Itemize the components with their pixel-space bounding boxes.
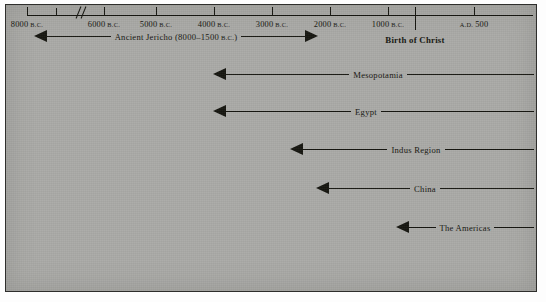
axis-tick-era: B.C. xyxy=(215,21,230,28)
birth-of-christ-tick xyxy=(415,7,416,30)
axis-tick xyxy=(214,7,215,16)
axis-tick-label: A.D. 500 xyxy=(460,20,489,29)
axis-tick-label: 8000 B.C. xyxy=(11,20,43,29)
timeline-bar-shaft-right xyxy=(440,188,534,189)
axis-tick xyxy=(104,7,105,16)
axis-tick-year: 8000 xyxy=(11,20,29,29)
axis-tick-label: 1000 B.C. xyxy=(372,20,404,29)
timeline-bar-label: Indus Region xyxy=(391,142,440,158)
axis-tick-year: 6000 xyxy=(88,20,106,29)
timeline-bar-label: China xyxy=(414,181,436,197)
axis-tick-year: 2000 xyxy=(314,20,332,29)
axis-tick-label: 6000 B.C. xyxy=(88,20,120,29)
axis-tick xyxy=(56,8,57,16)
timeline-bar-shaft-left xyxy=(328,188,410,189)
timeline-bar: China xyxy=(316,181,534,197)
axis-tick-era: B.C. xyxy=(105,21,120,28)
axis-tick-year: 5000 xyxy=(140,20,158,29)
axis-tick-year: 4000 xyxy=(198,20,216,29)
axis-tick-year: 1000 xyxy=(372,20,390,29)
axis-tick-year: 500 xyxy=(475,20,488,29)
timeline-bar: Mesopotamia xyxy=(213,67,534,83)
timeline-bar-shaft-left xyxy=(225,111,351,112)
axis-tick xyxy=(156,7,157,16)
axis-tick xyxy=(474,7,475,16)
timeline-bar-label: Mesopotamia xyxy=(353,67,403,83)
figure-plate: Ancient Jericho (8000–1500 B.C.)Mesopota… xyxy=(5,4,537,292)
timeline-bar-label: Egypt xyxy=(355,104,377,120)
arrowhead-left-icon xyxy=(396,221,409,233)
timeline-bar-label: The Americas xyxy=(440,220,491,236)
axis-tick xyxy=(388,7,389,16)
axis-tick-label: 5000 B.C. xyxy=(140,20,172,29)
timeline-bar-shaft-right xyxy=(407,74,534,75)
timeline-bar-shaft-right xyxy=(381,111,534,112)
timeline-bar-shaft-left xyxy=(225,74,349,75)
timeline-bar: Indus Region xyxy=(290,142,534,158)
timeline-bar-shaft-left xyxy=(302,149,387,150)
axis-tick xyxy=(330,7,331,16)
axis-tick-era: B.C. xyxy=(28,21,43,28)
axis-tick-year: 3000 xyxy=(256,20,274,29)
arrowhead-left-icon xyxy=(213,105,226,117)
timeline-bar: The Americas xyxy=(396,220,534,236)
timeline-bar: Egypt xyxy=(213,104,534,120)
axis-scale-break-mark xyxy=(81,6,87,18)
axis-tick xyxy=(272,7,273,16)
timeline-bar-shaft-right xyxy=(494,227,534,228)
axis-tick xyxy=(27,7,28,16)
arrowhead-left-icon xyxy=(290,143,303,155)
arrowhead-left-icon xyxy=(316,182,329,194)
timeline-bar-shaft-right xyxy=(445,149,534,150)
timeline-axis: 8000 B.C.6000 B.C.5000 B.C.4000 B.C.3000… xyxy=(6,5,536,62)
axis-tick-era: A.D. xyxy=(460,21,476,28)
axis-tick-era: B.C. xyxy=(157,21,172,28)
axis-tick-label: 4000 B.C. xyxy=(198,20,230,29)
axis-tick-era: B.C. xyxy=(273,21,288,28)
arrowhead-left-icon xyxy=(213,68,226,80)
birth-of-christ-label: Birth of Christ xyxy=(385,35,444,45)
timeline-canvas: Ancient Jericho (8000–1500 B.C.)Mesopota… xyxy=(6,5,536,291)
axis-tick-era: B.C. xyxy=(331,21,346,28)
axis-tick-era: B.C. xyxy=(389,21,404,28)
axis-line xyxy=(27,15,533,16)
axis-tick-label: 3000 B.C. xyxy=(256,20,288,29)
axis-tick-label: 2000 B.C. xyxy=(314,20,346,29)
timeline-figure: Ancient Jericho (8000–1500 B.C.)Mesopota… xyxy=(0,0,546,302)
timeline-bar-shaft-left xyxy=(408,227,436,228)
